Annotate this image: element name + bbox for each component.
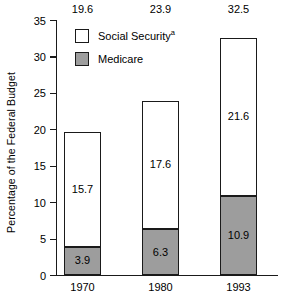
x-tick-label-1980: 1980 bbox=[148, 282, 172, 293]
legend-label-medicare: Medicare bbox=[98, 54, 143, 65]
bar-segment-value: 3.9 bbox=[75, 255, 90, 266]
y-tick-label-5: 5 bbox=[40, 234, 46, 245]
y-axis-line bbox=[56, 20, 57, 275]
legend-item-medicare[interactable]: Medicare bbox=[75, 49, 175, 69]
bar-group-1993: 32.5 21.6 10.9 1993 bbox=[220, 20, 257, 275]
y-tick-5: 5 bbox=[50, 239, 56, 240]
legend-label-social-security: Social Securitya bbox=[98, 31, 175, 42]
x-tick-label-1993: 1993 bbox=[226, 282, 250, 293]
y-tick-25: 25 bbox=[50, 93, 56, 94]
gray-square-swatch-icon bbox=[75, 52, 89, 66]
y-tick-15: 15 bbox=[50, 166, 56, 167]
y-axis-title: Percentage of the Federal Budget bbox=[0, 0, 22, 305]
y-tick-0: 0 bbox=[50, 275, 56, 276]
y-tick-10: 10 bbox=[50, 202, 56, 203]
y-tick-30: 30 bbox=[50, 56, 56, 57]
y-tick-label-30: 30 bbox=[34, 52, 46, 63]
bar-segment-value: 10.9 bbox=[228, 230, 249, 241]
y-tick-label-25: 25 bbox=[34, 88, 46, 99]
stacked-bar-chart: Percentage of the Federal Budget 35 30 2… bbox=[0, 0, 290, 305]
x-axis-line bbox=[56, 275, 278, 276]
legend-label-text: Social Security bbox=[98, 30, 171, 42]
y-tick-label-10: 10 bbox=[34, 197, 46, 208]
y-tick-35: 35 bbox=[50, 20, 56, 21]
y-tick-20: 20 bbox=[50, 129, 56, 130]
chart-legend: Social Securitya Medicare bbox=[75, 26, 175, 72]
legend-item-social-security[interactable]: Social Securitya bbox=[75, 26, 175, 46]
x-tick-label-1970: 1970 bbox=[70, 282, 94, 293]
legend-superscript: a bbox=[171, 28, 175, 37]
bar-segment-medicare-1980[interactable]: 6.3 bbox=[142, 229, 179, 275]
bar-segment-value: 17.6 bbox=[150, 159, 171, 170]
bar-segment-medicare-1993[interactable]: 10.9 bbox=[220, 196, 257, 275]
white-square-swatch-icon bbox=[75, 29, 89, 43]
bar-segment-medicare-1970[interactable]: 3.9 bbox=[64, 247, 101, 275]
bar-segment-social-security-1980[interactable]: 17.6 bbox=[142, 101, 179, 229]
bar-total-label-1970: 19.6 bbox=[72, 4, 93, 15]
bar-total-label-1980: 23.9 bbox=[150, 4, 171, 15]
bar-total-label-1993: 32.5 bbox=[228, 4, 249, 15]
bar-segment-social-security-1993[interactable]: 21.6 bbox=[220, 38, 257, 195]
legend-label-text: Medicare bbox=[98, 53, 143, 65]
y-tick-label-20: 20 bbox=[34, 124, 46, 135]
bar-segment-value: 15.7 bbox=[72, 184, 93, 195]
y-tick-label-0: 0 bbox=[40, 270, 46, 281]
bar-segment-value: 21.6 bbox=[228, 111, 249, 122]
bar-segment-value: 6.3 bbox=[153, 247, 168, 258]
y-tick-label-35: 35 bbox=[34, 15, 46, 26]
y-tick-label-15: 15 bbox=[34, 161, 46, 172]
bar-segment-social-security-1970[interactable]: 15.7 bbox=[64, 132, 101, 246]
